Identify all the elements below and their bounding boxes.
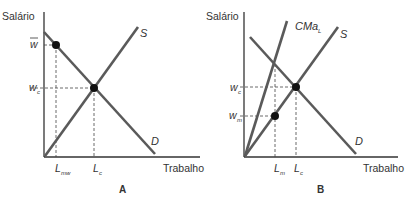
- panel-b-label: B: [317, 184, 324, 195]
- panel-a-wc-label: w c: [29, 81, 40, 95]
- panel-b-equilibrium-point: [292, 83, 300, 91]
- panel-a-label: A: [119, 184, 126, 195]
- panel-b-wm-sub: m: [237, 117, 242, 123]
- panel-a-lc-sub: c: [99, 170, 102, 176]
- panel-a-demand-label: D: [151, 135, 159, 147]
- panel-a-wbar-text: w: [30, 38, 39, 50]
- panel-a: Salário Trabalho S D w w c L mw L: [2, 10, 204, 195]
- panel-a-x-axis-label: Trabalho: [163, 162, 204, 174]
- panel-a-supply-label: S: [140, 27, 148, 39]
- panel-b-wc-label: w c: [230, 81, 241, 95]
- panel-a-equilibrium-point: [90, 84, 98, 92]
- panel-b-monopsony-point: [271, 112, 279, 120]
- labor-market-diagrams: Salário Trabalho S D w w c L mw L: [0, 0, 410, 201]
- panel-a-lc-label: L c: [93, 162, 102, 176]
- panel-a-wc-sub: c: [37, 89, 40, 95]
- panel-b-y-axis-label: Salário: [206, 10, 239, 22]
- panel-b-lc-label: L c: [294, 162, 303, 176]
- panel-b: Salário Trabalho CMa L S D w c w m: [206, 10, 404, 195]
- panel-b-marginal-cost-label: CMa L: [295, 20, 321, 34]
- panel-b-supply-label: S: [340, 28, 348, 40]
- panel-b-lc-sub: c: [300, 170, 303, 176]
- panel-b-demand-label: D: [355, 135, 363, 147]
- panel-a-lmw-sub: mw: [61, 170, 71, 176]
- panel-b-wc-sub: c: [238, 89, 241, 95]
- panel-b-demand-curve: [250, 37, 356, 154]
- panel-a-wbar-label: w: [30, 38, 39, 50]
- panel-b-cma-text: CMa: [295, 20, 318, 32]
- panel-b-x-axis-label: Trabalho: [363, 162, 404, 174]
- panel-a-y-axis-label: Salário: [2, 10, 35, 22]
- panel-a-lmw-label: L mw: [55, 162, 71, 176]
- panel-b-lm-sub: m: [280, 170, 285, 176]
- panel-a-minimum-wage-point: [52, 41, 60, 49]
- panel-b-cma-sub: L: [318, 28, 321, 34]
- panel-b-marginal-cost-curve: [245, 21, 287, 156]
- panel-b-lm-label: L m: [274, 162, 285, 176]
